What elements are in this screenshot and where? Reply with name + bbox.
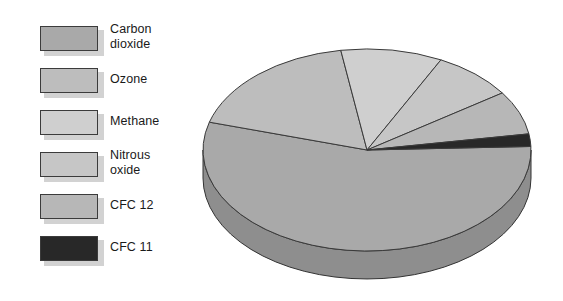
chart-legend: Carbon dioxide Ozone Methane Nitrous oxi… xyxy=(38,26,188,281)
legend-item-ozone[interactable]: Ozone xyxy=(38,68,188,102)
legend-label-methane: Methane xyxy=(110,114,196,129)
legend-label-ozone: Ozone xyxy=(110,72,196,87)
figure-root: Carbon dioxide Ozone Methane Nitrous oxi… xyxy=(0,0,563,301)
legend-swatch-wrap xyxy=(40,68,104,100)
pie-chart xyxy=(188,20,556,292)
legend-swatch-wrap xyxy=(40,26,104,58)
legend-item-carbon-dioxide[interactable]: Carbon dioxide xyxy=(38,26,188,60)
pie-top-faces xyxy=(203,49,531,251)
legend-swatch-cfc-12 xyxy=(40,194,98,219)
legend-swatch-wrap xyxy=(40,152,104,184)
legend-swatch-nitrous-oxide xyxy=(40,152,98,177)
legend-item-cfc-12[interactable]: CFC 12 xyxy=(38,194,188,228)
legend-label-nitrous-oxide: Nitrous oxide xyxy=(110,148,196,177)
legend-item-methane[interactable]: Methane xyxy=(38,110,188,144)
legend-item-nitrous-oxide[interactable]: Nitrous oxide xyxy=(38,152,188,186)
legend-swatch-wrap xyxy=(40,236,104,268)
legend-swatch-carbon-dioxide xyxy=(40,26,98,51)
legend-swatch-cfc-11 xyxy=(40,236,98,261)
legend-swatch-wrap xyxy=(40,194,104,226)
legend-label-carbon-dioxide: Carbon dioxide xyxy=(110,22,196,51)
legend-swatch-methane xyxy=(40,110,98,135)
legend-label-cfc-11: CFC 11 xyxy=(110,240,196,255)
pie-chart-svg xyxy=(188,20,556,292)
legend-swatch-ozone xyxy=(40,68,98,93)
legend-item-cfc-11[interactable]: CFC 11 xyxy=(38,236,188,270)
legend-swatch-wrap xyxy=(40,110,104,142)
legend-label-cfc-12: CFC 12 xyxy=(110,198,196,213)
